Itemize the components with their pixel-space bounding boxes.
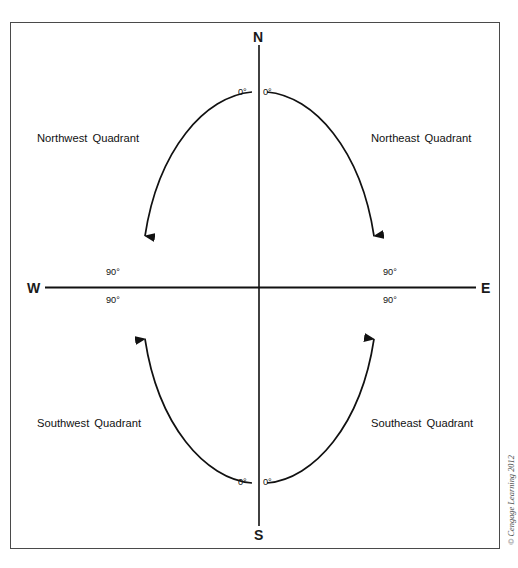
- angle-label-southwest-ninety: 90°: [106, 296, 120, 305]
- cardinal-label-west: W: [27, 281, 40, 295]
- copyright-credit: © Cengage Learning 2012: [507, 455, 516, 545]
- cardinal-label-north: N: [253, 30, 263, 44]
- angle-label-northwest-zero: 0°: [238, 88, 247, 97]
- cardinal-label-east: E: [481, 281, 491, 295]
- quadrant-label-northeast: Northeast Quadrant: [371, 133, 471, 144]
- angle-label-southeast-zero: 0°: [263, 478, 272, 487]
- angle-label-southeast-ninety: 90°: [383, 296, 397, 305]
- cardinal-label-south: S: [254, 528, 264, 542]
- angle-label-southwest-zero: 0°: [238, 478, 247, 487]
- quadrant-label-southwest: Southwest Quadrant: [37, 418, 141, 429]
- quadrant-label-northwest: Northwest Quadrant: [37, 133, 139, 144]
- angle-label-northeast-ninety: 90°: [383, 268, 397, 277]
- page-artifact-strip: [14, 0, 224, 12]
- quadrant-label-southeast: Southeast Quadrant: [371, 418, 473, 429]
- angle-label-northeast-zero: 0°: [263, 88, 272, 97]
- figure-container: N S W E Northwest Quadrant Northeast Qua…: [0, 0, 518, 568]
- figure-frame: [10, 22, 500, 549]
- angle-label-northwest-ninety: 90°: [106, 268, 120, 277]
